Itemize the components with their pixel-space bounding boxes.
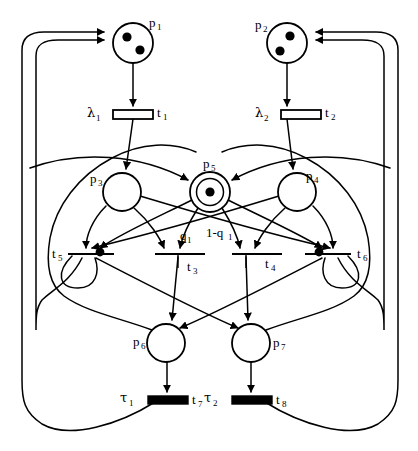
transition-t8[interactable]: τ 2 t 8	[204, 390, 287, 409]
rate-sub-lambda2: 2	[264, 113, 269, 123]
place-sub-p1: 1	[157, 22, 162, 32]
transition-sub-t7: 7	[198, 399, 203, 409]
arc-p4-to-t4	[255, 208, 285, 248]
arc-label-q1-text: q	[180, 228, 187, 243]
place-label-p3: p	[90, 171, 97, 186]
transition-t2[interactable]: λ 2 t 2	[255, 105, 336, 123]
place-label-p1: p	[149, 15, 156, 30]
transition-t7[interactable]: τ 1 t 7	[120, 390, 203, 409]
place-sub-p4: 4	[314, 175, 319, 185]
place-p2[interactable]: p 2	[255, 17, 307, 63]
arc-p5-to-t4	[222, 208, 240, 248]
transition-label-t7: t	[192, 392, 196, 407]
token	[135, 45, 144, 54]
arc-t6-to-p6	[180, 258, 322, 328]
arc-label-1-q1: 1-q 1	[206, 225, 233, 242]
arc-t1-to-p3	[126, 119, 133, 169]
transition-label-t1: t	[157, 105, 161, 120]
token	[285, 31, 294, 40]
transition-sub-t6: 6	[363, 253, 368, 263]
place-p3[interactable]: p 3	[90, 171, 141, 211]
rate-sub-tau1: 1	[129, 398, 134, 408]
arc-t6-lobe	[323, 256, 359, 288]
rate-label-lambda2: λ	[255, 105, 263, 120]
transition-sub-t3: 3	[193, 266, 198, 276]
arc-t3-to-p6	[172, 257, 178, 320]
place-p1[interactable]: p 1	[113, 15, 162, 63]
rate-sub-tau2: 2	[213, 398, 218, 408]
transition-sub-t1: 1	[163, 112, 168, 122]
arc-p3-to-t5	[86, 206, 106, 248]
transition-t3[interactable]: t 3	[155, 254, 205, 276]
transition-sub-t2: 2	[331, 112, 336, 122]
arc-p4-to-t6	[313, 206, 333, 248]
arc-label-q1-sub: 1	[187, 235, 192, 245]
rate-sub-lambda1: 1	[96, 113, 101, 123]
petri-net-canvas: p 1 p 2 p 3 p 4 p 5 p	[0, 0, 418, 451]
place-p7[interactable]: p 7	[232, 324, 286, 362]
arc-label-1-q1-sub: 1	[228, 232, 233, 242]
inhibitor-dot	[315, 248, 324, 257]
transition-t6[interactable]: t 6	[305, 246, 368, 263]
petri-net-diagram: p 1 p 2 p 3 p 4 p 5 p	[0, 0, 418, 451]
places-group: p 1 p 2 p 3 p 4 p 5 p	[90, 15, 319, 362]
rate-label-tau1: τ	[120, 390, 127, 405]
transition-sub-t5: 5	[58, 253, 63, 263]
rate-label-tau2: τ	[204, 390, 211, 405]
rate-label-lambda1: λ	[87, 105, 95, 120]
place-label-p6: p	[133, 334, 140, 349]
arc-p3-to-t3	[134, 208, 164, 248]
arc-t7-to-p1	[22, 32, 155, 430]
transition-label-t3: t	[187, 259, 191, 274]
place-label-p5: p	[203, 156, 210, 171]
arc-t5-to-p7	[96, 258, 238, 328]
arc-t2-to-p4	[287, 119, 293, 169]
transition-label-t6: t	[357, 246, 361, 261]
transition-label-t5: t	[52, 246, 56, 261]
token	[205, 187, 214, 196]
transitions-group: λ 1 t 1 λ 2 t 2 t 3 t 4	[52, 105, 368, 409]
transition-label-t8: t	[276, 392, 280, 407]
transition-label-t4: t	[265, 256, 269, 271]
transition-t1[interactable]: λ 1 t 1	[87, 105, 168, 123]
token	[122, 32, 131, 41]
arc-t8-to-p2	[265, 32, 398, 430]
arc-label-1-q1-text: 1-q	[206, 225, 224, 240]
arc-t5-lobe	[61, 256, 97, 288]
place-p4[interactable]: p 4	[278, 168, 319, 211]
arc-labels-group: q 1 1-q 1	[180, 225, 233, 245]
token	[275, 46, 284, 55]
transition-t4[interactable]: t 4	[232, 254, 282, 273]
inhibitor-dot	[96, 248, 105, 257]
transition-sub-t4: 4	[271, 263, 276, 273]
transition-sub-t8: 8	[282, 399, 287, 409]
place-sub-p3: 3	[98, 178, 103, 188]
place-label-p4: p	[306, 168, 313, 183]
place-sub-p2: 2	[263, 24, 268, 34]
place-sub-p6: 6	[141, 341, 146, 351]
transition-t5[interactable]: t 5	[52, 246, 114, 263]
place-p5[interactable]: p 5	[190, 156, 230, 212]
place-sub-p5: 5	[211, 163, 216, 173]
place-p6[interactable]: p 6	[133, 324, 185, 362]
place-sub-p7: 7	[281, 342, 286, 352]
place-label-p7: p	[273, 335, 280, 350]
transition-label-t2: t	[325, 105, 329, 120]
arc-label-q1: q 1	[180, 228, 192, 245]
place-label-p2: p	[255, 17, 262, 32]
